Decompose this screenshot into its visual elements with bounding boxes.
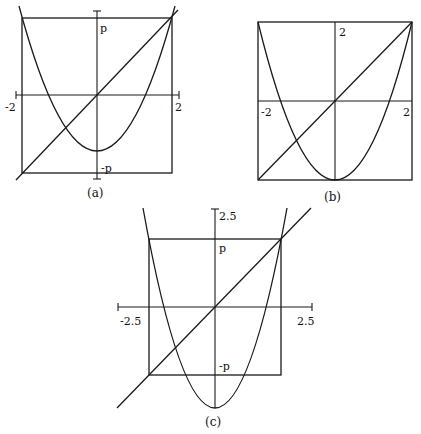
panel-a: -2 2 p -p (a) — [5, 6, 182, 200]
panel-b-label-xmin: -2 — [261, 106, 272, 119]
panel-c-caption: (c) — [205, 415, 221, 429]
panel-b-label-ytop: 2 — [339, 26, 346, 39]
panel-c-label-xmax: 2.5 — [297, 315, 315, 328]
panel-b-label-xmax: 2 — [403, 106, 410, 119]
panel-c-label-xmin: -2.5 — [120, 315, 141, 328]
panel-a-caption: (a) — [87, 186, 104, 200]
panel-a-label-neg-p: -p — [101, 162, 112, 175]
panel-b-caption: (b) — [324, 190, 341, 204]
figure: -2 2 p -p (a) -2 2 2 (b) -2.5 2.5 2.5 p … — [0, 0, 421, 434]
panel-c-label-p: p — [219, 242, 226, 255]
panel-a-label-xmin: -2 — [5, 101, 16, 114]
panel-c-label-neg-p: -p — [219, 360, 230, 373]
panel-a-label-p: p — [100, 22, 107, 35]
panel-c: -2.5 2.5 2.5 p -p (c) — [117, 208, 315, 429]
panel-a-label-xmax: 2 — [175, 101, 182, 114]
panel-b: -2 2 2 (b) — [258, 22, 412, 204]
panel-c-label-axis-top: 2.5 — [219, 210, 237, 223]
panel-c-diagonal — [117, 208, 311, 408]
